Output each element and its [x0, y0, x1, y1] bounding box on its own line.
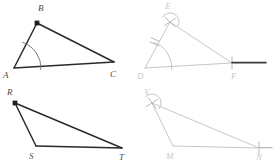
- side-df: [145, 63, 232, 68]
- panel-constructed-triangle-def: E D F: [136, 1, 266, 81]
- side-ab: [14, 23, 37, 68]
- side-vm: [152, 103, 173, 146]
- angle-arc-at-d: [153, 42, 172, 70]
- side-st: [36, 146, 122, 148]
- panel-original-triangle-rst: R S T: [6, 87, 125, 162]
- tick-on-arc-at-d-b: [151, 38, 160, 42]
- side-ac: [14, 62, 114, 68]
- label-v: V: [144, 87, 151, 97]
- panel-original-triangle-abc: B A C: [2, 3, 117, 80]
- geometry-figure-root: B A C E D F R: [0, 0, 275, 162]
- side-ef: [170, 22, 232, 63]
- geometry-canvas: B A C E D F R: [0, 0, 275, 162]
- side-bc: [37, 23, 114, 62]
- label-d: D: [136, 71, 144, 81]
- label-n: N: [255, 152, 263, 162]
- label-e: E: [164, 1, 171, 11]
- side-rt: [15, 103, 122, 148]
- tick-cross-at-v-b: [148, 98, 156, 109]
- label-b: B: [38, 3, 44, 13]
- label-m: M: [165, 151, 174, 161]
- label-f: F: [230, 71, 237, 81]
- panel-constructed-triangle-vmn: V M N: [144, 87, 272, 162]
- side-mn: [173, 146, 259, 148]
- tick-cross-at-e-b: [165, 17, 176, 27]
- label-t: T: [119, 152, 125, 162]
- vertex-dot-r: [13, 101, 18, 106]
- vertex-dot-b: [35, 21, 40, 26]
- label-a: A: [2, 70, 9, 80]
- label-r: R: [6, 87, 13, 97]
- label-s: S: [29, 151, 34, 161]
- label-c: C: [110, 69, 117, 79]
- side-vn: [152, 103, 259, 148]
- side-rs: [15, 103, 36, 146]
- compass-arc-at-e: [162, 13, 179, 26]
